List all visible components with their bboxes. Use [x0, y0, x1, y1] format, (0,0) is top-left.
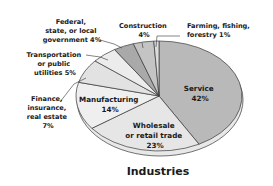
label-construction: Construction 4%: [119, 22, 169, 39]
chart-title: Industries: [127, 165, 190, 178]
label-farming: Farming, fishing, forestry 1%: [187, 22, 252, 39]
pie-chart: Service 42% Wholesale or retail trade 23…: [0, 0, 273, 186]
label-finance: Finance, insurance, real estate 7%: [27, 95, 70, 130]
label-transportation: Transportation or public utilities 5%: [26, 51, 83, 77]
label-government: Federal, state, or local government 4%: [43, 18, 102, 44]
